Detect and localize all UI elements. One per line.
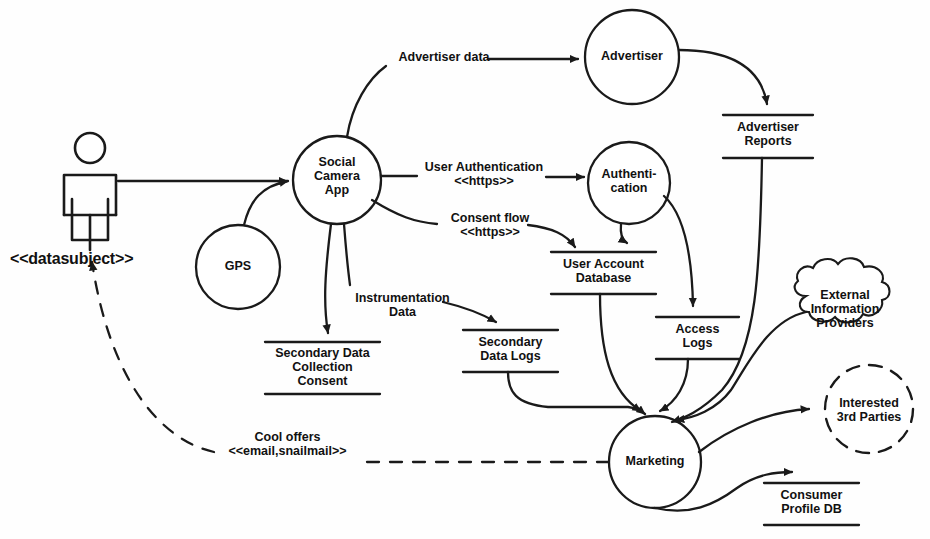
process-social-camera-app[interactable] — [293, 136, 381, 224]
flow-label-instrumentation-data: Instrumentation Data — [345, 291, 460, 319]
dfd-diagram-canvas: <<datasubject>> Social Camera App GPS Ad… — [0, 0, 930, 539]
store-consumer-profile-db[interactable] — [764, 483, 859, 525]
flow-marketing-to-3rd-parties — [699, 409, 809, 452]
interested-3rd-parties[interactable] — [825, 365, 913, 453]
process-advertiser[interactable] — [585, 10, 679, 104]
store-advertiser-reports[interactable] — [723, 115, 813, 158]
flow-auth-to-user-db — [621, 224, 627, 243]
process-marketing[interactable] — [609, 416, 701, 508]
store-user-account-db[interactable] — [551, 252, 656, 294]
flow-instrumentation-left — [344, 224, 350, 285]
flow-label-consent-flow: Consent flow <<https>> — [440, 211, 540, 239]
flow-label-advertiser-data: Advertiser data — [389, 50, 499, 64]
flow-label-cool-offers: Cool offers <<email,snailmail>> — [215, 430, 360, 458]
flow-consent-flow-left — [372, 200, 437, 224]
flow-seclogs-to-marketing — [508, 372, 645, 414]
flow-advertiser-to-reports — [679, 50, 767, 104]
diagram-connectors-layer — [0, 0, 930, 539]
flow-app-to-consent-store — [325, 224, 331, 333]
actor-datasubject-label: <<datasubject>> — [10, 250, 133, 268]
store-secondary-consent[interactable] — [265, 342, 380, 394]
store-access-logs[interactable] — [656, 317, 739, 359]
flow-advertiser-data-left — [347, 66, 386, 137]
flow-label-user-authentication: User Authentication <<https>> — [419, 160, 549, 188]
stick-figure-actor-glyph — [64, 133, 116, 250]
process-authentication[interactable] — [588, 142, 670, 224]
flow-accesslogs-to-marketing — [660, 359, 688, 411]
flow-reports-to-marketing — [672, 158, 762, 422]
external-info-providers[interactable] — [793, 255, 897, 327]
store-secondary-data-logs[interactable] — [463, 330, 558, 372]
flow-cool-offers-left — [92, 262, 214, 452]
flow-gps-to-app — [244, 181, 288, 225]
flow-userdb-to-marketing — [600, 294, 641, 411]
process-gps[interactable] — [196, 225, 280, 309]
flow-auth-to-access-logs — [664, 196, 693, 306]
